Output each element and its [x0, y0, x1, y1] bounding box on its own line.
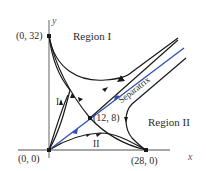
subregion-2-label: II — [93, 140, 99, 150]
point-label-28-0: (28, 0) — [131, 156, 158, 166]
y-axis-label: y — [52, 16, 56, 26]
point-label-0-32: (0, 32) — [16, 31, 43, 41]
separatrix-line — [49, 48, 184, 150]
point-label-origin: (0, 0) — [18, 154, 40, 164]
subregion-1-label: I — [56, 98, 59, 108]
region-1-label: Region I — [73, 31, 111, 42]
point-label-saddle: (12, 8) — [93, 113, 120, 123]
phase-plane-graphic — [0, 0, 206, 171]
trajectories — [49, 36, 186, 150]
x-axis-label: x — [188, 152, 192, 162]
region-2-label: Region II — [148, 117, 190, 128]
phase-portrait-diagram: y x (0, 32) (0, 0) (28, 0) (12, 8) Regio… — [0, 0, 206, 171]
